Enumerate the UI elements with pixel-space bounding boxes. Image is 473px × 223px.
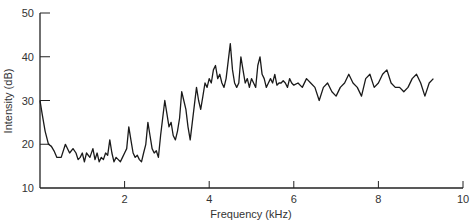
y-tick-label: 10 [22,182,34,194]
y-tick-label: 20 [22,138,34,150]
x-tick-label: 10 [457,193,469,205]
intensity-line [40,44,433,162]
x-tick-label: 8 [375,193,381,205]
x-axis-ticks: 246810 [122,181,470,205]
plot-area: 1020304050 246810 [22,7,469,205]
x-tick-label: 2 [122,193,128,205]
y-axis-title: Intensity (dB) [2,69,14,134]
x-axis-title: Frequency (kHz) [210,208,291,220]
y-tick-label: 50 [22,7,34,19]
x-tick-label: 4 [206,193,212,205]
y-tick-label: 30 [22,95,34,107]
spectrum-chart: 1020304050 246810 Frequency (kHz) Intens… [0,0,473,223]
x-tick-label: 6 [291,193,297,205]
y-tick-label: 40 [22,51,34,63]
y-axis-ticks: 1020304050 [22,7,50,194]
